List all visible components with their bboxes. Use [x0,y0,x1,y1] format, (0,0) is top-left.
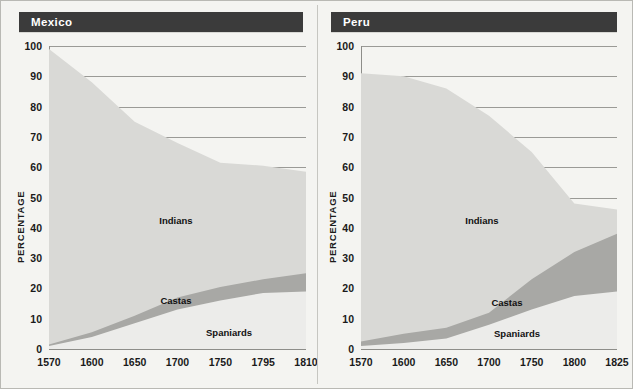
series-label-spaniards: Spaniards [494,328,540,339]
x-tick-label: 1650 [435,356,459,368]
x-tick-label: 1600 [80,356,104,368]
y-tick-label: 30 [30,252,42,264]
series-label-spaniards: Spaniards [206,327,252,338]
series-label-castas: Castas [491,297,522,308]
x-tick-label: 1570 [37,356,61,368]
y-tick-label: 90 [30,70,42,82]
x-tick-label: 1750 [520,356,544,368]
x-tick-label: 1650 [123,356,147,368]
y-tick-label: 60 [342,161,354,173]
y-tick-label: 10 [30,313,42,325]
y-tick-label: 30 [342,252,354,264]
x-tick-label: 1810 [294,356,317,368]
y-tick-label: 10 [342,313,354,325]
y-tick-label: 50 [342,192,354,204]
y-tick-label: 40 [30,222,42,234]
plot-area-peru: 0102030405060708090100157016001650170017… [317,1,633,389]
y-tick-label: 20 [342,282,354,294]
chart-panel-mexico: Mexico PERCENTAGE 0102030405060708090100… [1,1,317,388]
x-tick-label: 1795 [251,356,275,368]
x-tick-label: 1800 [563,356,587,368]
y-tick-label: 60 [30,161,42,173]
y-tick-label: 70 [342,131,354,143]
x-tick-label: 1750 [209,356,233,368]
y-tick-label: 50 [30,192,42,204]
chart-panel-peru: Peru PERCENTAGE 010203040506070809010015… [317,1,633,388]
y-tick-label: 80 [30,101,42,113]
y-tick-label: 80 [342,101,354,113]
x-tick-label: 1600 [392,356,416,368]
y-tick-label: 0 [36,343,42,355]
series-label-castas: Castas [160,295,191,306]
x-tick-label: 1570 [349,356,373,368]
y-tick-label: 70 [30,131,42,143]
series-label-indians: Indians [465,215,498,226]
x-tick-label: 1700 [477,356,501,368]
x-tick-label: 1700 [166,356,190,368]
y-tick-label: 0 [348,343,354,355]
chart-figure: Mexico PERCENTAGE 0102030405060708090100… [0,0,633,389]
y-tick-label: 40 [342,222,354,234]
y-tick-label: 100 [24,40,42,52]
plot-area-mexico: 0102030405060708090100157016001650170017… [1,1,317,389]
series-label-indians: Indians [159,215,192,226]
y-tick-label: 20 [30,282,42,294]
y-tick-label: 100 [336,40,354,52]
x-tick-label: 1825 [605,356,629,368]
y-tick-label: 90 [342,70,354,82]
